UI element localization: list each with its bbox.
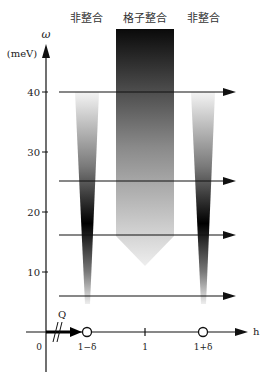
x-tick-1-minus-delta: 1−δ: [78, 342, 97, 352]
dispersion-diagram: 非整合 格子整合 非整合 ω (meV) 10 20 30 40 h Q: [0, 0, 267, 372]
incommensurate-peak-left: [83, 328, 92, 337]
y-ticks: 10 20 30 40: [27, 87, 48, 278]
omega-axis-arrow-icon: [42, 44, 50, 58]
y-tick-40: 40: [27, 87, 40, 98]
y-tick-30: 30: [27, 147, 40, 158]
label-incommensurate-left: 非整合: [70, 11, 103, 25]
omega-symbol: ω: [42, 28, 51, 41]
commensurate-band: [116, 29, 174, 266]
x-tick-1: 1: [142, 342, 148, 352]
h-axis-arrow-icon: [235, 328, 248, 336]
h-axis-label: h: [253, 326, 260, 337]
incommensurate-band-left: [75, 92, 99, 304]
omega-unit: (meV): [7, 48, 38, 59]
label-incommensurate-right: 非整合: [187, 11, 220, 25]
q-label: Q: [58, 309, 66, 320]
q-vector-arrow-icon: [70, 327, 82, 337]
y-tick-10: 10: [27, 267, 40, 278]
incommensurate-band-right: [191, 92, 215, 304]
incommensurate-peak-right: [199, 328, 208, 337]
x-tick-1-plus-delta: 1+δ: [194, 342, 213, 352]
y-tick-20: 20: [27, 207, 40, 218]
label-commensurate: 格子整合: [123, 11, 167, 25]
origin-label: 0: [36, 342, 42, 352]
